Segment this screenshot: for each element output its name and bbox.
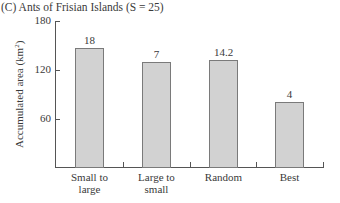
bar-large-to-small — [142, 62, 171, 168]
x-tick — [123, 162, 124, 167]
category-label-line: Best — [260, 171, 320, 183]
bar-value-label: 18 — [70, 34, 110, 46]
x-category-label: Large tosmall — [127, 171, 187, 195]
bar-value-label: 14.2 — [204, 46, 244, 58]
bar-value-label: 7 — [137, 48, 177, 60]
x-category-label: Random — [194, 171, 254, 183]
chart-title: (C) Ants of Frisian Islands (S = 25) — [1, 1, 164, 13]
x-category-label: Small tolarge — [60, 171, 120, 195]
x-tick — [256, 162, 257, 167]
x-category-label: Best — [260, 171, 320, 183]
bar-value-label: 4 — [270, 88, 310, 100]
y-tick — [55, 21, 60, 22]
bar-small-to-large — [75, 48, 104, 168]
y-tick-label: 60 — [20, 112, 51, 124]
category-label-line: Random — [194, 171, 254, 183]
y-tick-label: 180 — [20, 14, 51, 26]
category-label-line: Large to — [127, 171, 187, 183]
bar-random — [209, 60, 238, 168]
y-axis-label: Accumulated area (km2) — [13, 29, 26, 159]
bar-best — [275, 102, 304, 168]
y-axis-label-superscript: 2 — [13, 44, 21, 48]
y-tick — [55, 119, 60, 120]
y-axis-line — [55, 21, 56, 168]
category-label-line: Small to — [60, 171, 120, 183]
category-label-line: small — [127, 183, 187, 195]
y-tick — [55, 70, 60, 71]
category-label-line: large — [60, 183, 120, 195]
y-axis-label-close: ) — [13, 41, 25, 45]
x-tick — [323, 162, 324, 167]
x-tick — [190, 162, 191, 167]
y-tick-label: 120 — [20, 63, 51, 75]
